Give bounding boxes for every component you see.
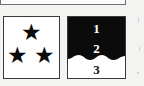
layers-symbol-box: 1 2 3	[67, 16, 126, 79]
layer-label-3: 3	[68, 63, 125, 76]
star-icon-right: ★	[34, 44, 55, 67]
scan-speckle	[137, 72, 139, 74]
scan-speckle	[139, 47, 140, 51]
star-icon-top: ★	[21, 21, 42, 44]
scan-speckle	[138, 18, 139, 23]
cropped-box-above	[0, 0, 126, 5]
layer-label-2: 2	[68, 42, 125, 55]
layer-label-1: 1	[68, 22, 125, 35]
star-icon-left: ★	[7, 44, 28, 67]
scanned-page: ★ ★ ★ 1 2 3	[0, 0, 144, 86]
stars-symbol-box: ★ ★ ★	[3, 16, 60, 79]
